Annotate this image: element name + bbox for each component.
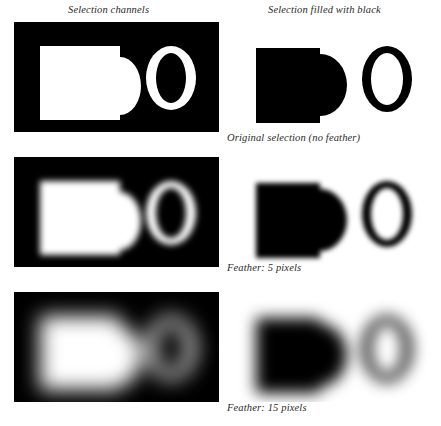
selection-shapes <box>14 157 219 267</box>
column-heading-selection-filled: Selection filled with black <box>268 4 381 15</box>
caption-no-feather: Original selection (no feather) <box>227 132 360 143</box>
selection-shapes <box>228 157 433 267</box>
selection-shapes <box>228 292 433 402</box>
letter-o-shape <box>14 22 219 132</box>
letter-o-shape <box>228 22 433 132</box>
selection-channel-panel-no-feather <box>14 22 219 132</box>
caption-feather-15: Feather: 15 pixels <box>227 402 307 413</box>
selection-filled-image-feather-15 <box>228 292 433 402</box>
letter-o-shape <box>14 292 219 402</box>
selection-channel-image-feather-5 <box>14 157 219 267</box>
letter-o-shape <box>14 157 219 267</box>
letter-o-shape <box>228 157 433 267</box>
selection-shapes <box>228 22 433 132</box>
selection-filled-panel-feather-5 <box>228 157 433 267</box>
selection-channel-panel-feather-15 <box>14 292 219 402</box>
selection-filled-image-feather-5 <box>228 157 433 267</box>
selection-filled-panel-no-feather <box>228 22 433 132</box>
selection-filled-image-no-feather <box>228 22 433 132</box>
selection-shapes <box>14 22 219 132</box>
letter-o-shape <box>228 292 433 402</box>
selection-shapes <box>14 292 219 402</box>
selection-channel-panel-feather-5 <box>14 157 219 267</box>
selection-filled-panel-feather-15 <box>228 292 433 402</box>
selection-channel-image-feather-15 <box>14 292 219 402</box>
caption-feather-5: Feather: 5 pixels <box>227 262 301 273</box>
selection-channel-image-no-feather <box>14 22 219 132</box>
column-heading-selection-channels: Selection channels <box>68 4 149 15</box>
